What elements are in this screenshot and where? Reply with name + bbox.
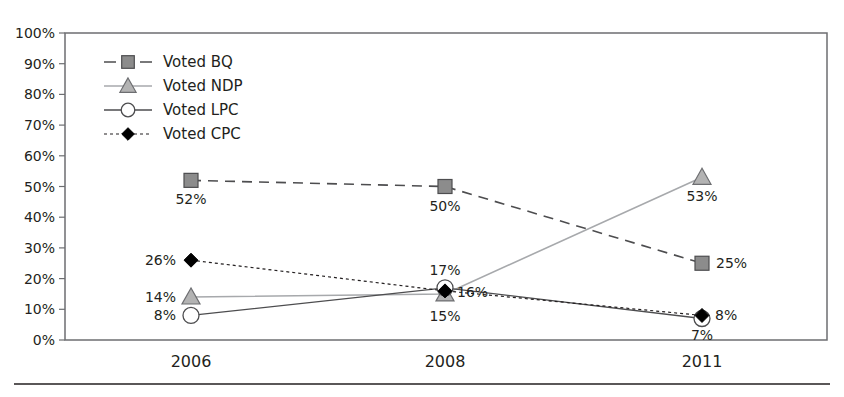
diamond-marker-icon — [184, 253, 198, 267]
square-marker-icon — [184, 173, 198, 187]
y-tick-label: 10% — [24, 301, 55, 317]
square-marker-icon — [122, 56, 135, 69]
triangle-marker-icon — [693, 168, 711, 184]
legend-item: Voted CPC — [104, 125, 241, 143]
circle-marker-icon — [183, 307, 199, 323]
x-tick-label: 2008 — [425, 352, 466, 371]
data-label: 17% — [429, 262, 460, 278]
y-tick-label: 90% — [24, 56, 55, 72]
y-axis: 0%10%20%30%40%50%60%70%80%90%100% — [15, 25, 65, 348]
x-tick-label: 2006 — [171, 352, 212, 371]
legend-item: Voted BQ — [104, 53, 233, 71]
data-label: 25% — [716, 255, 747, 271]
legend-label: Voted NDP — [163, 77, 243, 95]
y-tick-label: 40% — [24, 209, 55, 225]
y-tick-label: 30% — [24, 240, 55, 256]
data-label: 15% — [429, 308, 460, 324]
triangle-marker-icon — [182, 288, 200, 304]
diamond-marker-icon — [122, 128, 135, 141]
legend-label: Voted LPC — [163, 101, 239, 119]
y-tick-label: 0% — [33, 332, 55, 348]
y-tick-label: 80% — [24, 86, 55, 102]
y-tick-label: 70% — [24, 117, 55, 133]
legend-label: Voted CPC — [163, 125, 241, 143]
square-marker-icon — [695, 256, 709, 270]
y-tick-label: 20% — [24, 271, 55, 287]
data-label: 52% — [175, 191, 206, 207]
legend-item: Voted NDP — [104, 77, 243, 95]
x-axis: 200620082011 — [171, 352, 723, 371]
x-tick-label: 2011 — [682, 352, 723, 371]
line-chart: 0%10%20%30%40%50%60%70%80%90%100% 200620… — [0, 0, 844, 397]
data-label: 53% — [686, 188, 717, 204]
legend-label: Voted BQ — [163, 53, 233, 71]
data-label: 14% — [145, 289, 176, 305]
data-label: 16% — [457, 284, 488, 300]
square-marker-icon — [438, 180, 452, 194]
data-label: 50% — [429, 198, 460, 214]
legend: Voted BQVoted NDPVoted LPCVoted CPC — [104, 53, 243, 143]
series-line-voted-ndp — [191, 177, 702, 297]
y-tick-label: 50% — [24, 179, 55, 195]
circle-marker-icon — [121, 103, 135, 117]
data-label: 8% — [715, 307, 737, 323]
data-label: 26% — [145, 252, 176, 268]
y-tick-label: 100% — [15, 25, 55, 41]
triangle-marker-icon — [120, 78, 136, 92]
y-tick-label: 60% — [24, 148, 55, 164]
series-markers — [182, 168, 711, 326]
legend-item: Voted LPC — [104, 101, 239, 119]
data-label: 7% — [691, 327, 713, 343]
data-label: 8% — [154, 307, 176, 323]
